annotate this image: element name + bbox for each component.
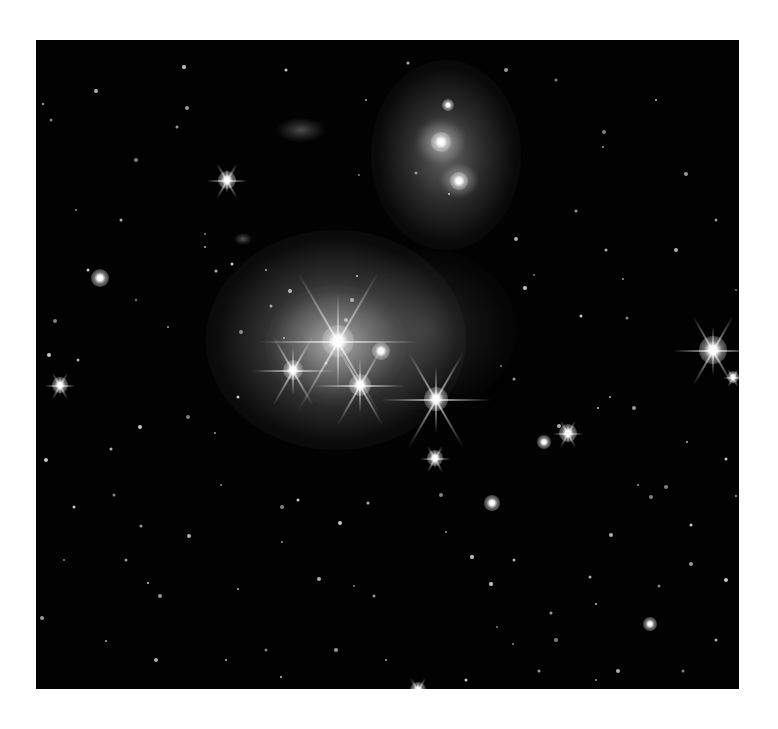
faint-star: [385, 659, 387, 661]
diffraction-spike: [673, 350, 713, 352]
faint-star: [77, 359, 80, 362]
faint-star: [280, 505, 284, 509]
diffraction-spike: [337, 386, 361, 426]
bright-star: [427, 450, 443, 466]
faint-star: [580, 315, 583, 318]
bright-star: [283, 360, 303, 380]
faint-star: [334, 648, 338, 652]
faint-star: [538, 670, 541, 673]
faint-star: [605, 249, 608, 252]
diffraction-spike: [226, 181, 228, 193]
faint-star: [187, 534, 191, 538]
faint-star: [317, 577, 321, 581]
faint-star: [50, 119, 53, 122]
diffraction-spike: [59, 377, 61, 386]
bright-star: [537, 435, 551, 449]
faint-star: [158, 594, 162, 598]
bright-star: [218, 171, 236, 189]
faint-star: [735, 289, 737, 291]
faint-star: [297, 499, 300, 502]
faint-star: [523, 286, 527, 290]
faint-star: [609, 396, 611, 398]
faint-star: [176, 126, 179, 129]
diffraction-spike: [732, 372, 734, 378]
faint-star: [602, 130, 606, 134]
bright-star: [91, 269, 109, 287]
diffraction-spike: [568, 433, 583, 435]
faint-star: [609, 533, 613, 537]
faint-star: [674, 248, 678, 252]
diffraction-spike: [435, 400, 464, 449]
diffraction-spike: [227, 180, 247, 182]
bright-star: [431, 132, 451, 152]
bright-star: [424, 387, 448, 411]
bright-star: [559, 424, 577, 442]
diffraction-spike: [567, 434, 569, 443]
faint-star: [265, 649, 268, 652]
diffraction-spike: [292, 371, 294, 395]
faint-star: [715, 219, 718, 222]
faint-star: [513, 559, 516, 562]
faint-star: [94, 89, 98, 93]
diffraction-spike: [337, 294, 339, 342]
upper-right-nebula-glow: [371, 60, 521, 250]
faint-star: [725, 458, 728, 461]
faint-star: [40, 616, 44, 620]
faint-star: [239, 330, 243, 334]
faint-star: [73, 506, 76, 509]
bright-star: [699, 336, 727, 364]
faint-star: [154, 658, 158, 662]
faint-star: [285, 69, 288, 72]
diffraction-spike: [60, 385, 75, 387]
faint-star: [407, 62, 410, 65]
diffraction-spike: [258, 341, 338, 343]
faint-star: [204, 246, 206, 248]
faint-star: [167, 326, 169, 328]
faint-star: [225, 659, 227, 661]
diffraction-spike: [292, 347, 294, 371]
diffraction-spike: [381, 399, 436, 401]
faint-star: [465, 679, 468, 682]
diffraction-spike: [315, 385, 360, 387]
faint-star: [550, 612, 553, 615]
faint-star: [353, 585, 355, 587]
faint-star: [595, 603, 597, 605]
diffraction-spike: [435, 367, 437, 400]
diffraction-spike: [253, 370, 293, 372]
faint-star: [504, 68, 508, 72]
faint-star: [214, 432, 216, 434]
diffraction-spike: [435, 400, 437, 433]
faint-star: [186, 415, 190, 419]
faint-star: [489, 582, 493, 586]
faint-star: [53, 319, 57, 323]
faint-star: [75, 209, 77, 211]
faint-star: [125, 559, 128, 562]
small-wisp-nebula: [277, 118, 325, 142]
faint-star: [496, 626, 498, 628]
diffraction-spike: [732, 378, 734, 384]
bright-star: [349, 374, 371, 396]
faint-star: [689, 562, 693, 566]
faint-star: [283, 337, 285, 339]
diffraction-spike: [712, 351, 714, 375]
faint-star: [724, 578, 728, 582]
diffraction-spike: [359, 359, 361, 386]
faint-star: [215, 270, 218, 273]
faint-star: [597, 407, 599, 409]
diffraction-spike: [692, 351, 714, 387]
diffraction-spike: [272, 371, 294, 407]
diffraction-spike: [567, 425, 569, 434]
faint-star: [365, 99, 367, 101]
diffraction-spike: [360, 385, 405, 387]
diffraction-spike: [408, 352, 437, 401]
faint-star: [684, 172, 688, 176]
faint-star: [63, 559, 65, 561]
faint-star: [602, 146, 604, 148]
faint-star: [690, 524, 693, 527]
bright-star: [410, 682, 426, 689]
faint-star: [715, 639, 718, 642]
faint-star: [350, 298, 354, 302]
diffraction-spike: [417, 682, 419, 689]
faint-star: [439, 493, 443, 497]
faint-star: [658, 585, 661, 588]
